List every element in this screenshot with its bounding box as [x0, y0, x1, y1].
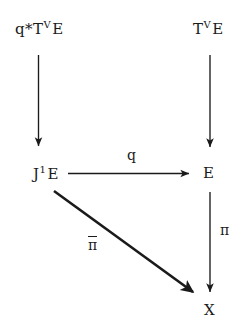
node-e-base: E	[203, 164, 214, 182]
node-x-base: X	[204, 301, 215, 319]
node-q-star-tv-e: q*TVE	[15, 20, 64, 37]
node-q-star-tv-e-base: q*T	[15, 20, 44, 38]
node-q-star-tv-e-suffix: E	[52, 20, 63, 38]
commutative-diagram: E --> X --> X --> q*TVE TVE J1E E X q π …	[0, 0, 244, 329]
node-j1-e: J1E	[33, 165, 59, 182]
node-j1-e-suffix: E	[47, 165, 58, 183]
arrow-label-pi: π	[220, 223, 229, 237]
node-x: X	[204, 303, 215, 318]
arrow-label-pi-bar: π	[88, 236, 97, 252]
arrow-label-q: q	[127, 148, 136, 162]
node-tv-e-superscript: V	[204, 19, 211, 30]
node-tv-e-base: T	[193, 20, 204, 38]
arrow-diagonal-pi-bar	[54, 191, 193, 292]
node-q-star-tv-e-superscript: V	[44, 19, 51, 30]
node-tv-e-suffix: E	[212, 20, 223, 38]
node-tv-e: TVE	[193, 20, 224, 37]
node-e: E	[203, 166, 214, 181]
node-j1-e-superscript: 1	[40, 164, 46, 175]
